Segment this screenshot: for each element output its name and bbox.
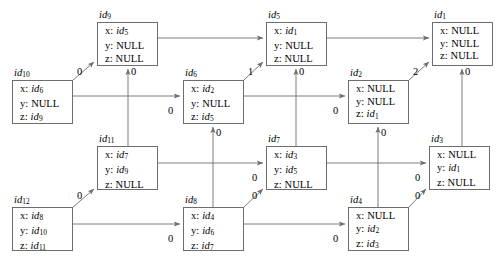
node-id4[interactable]: x:NULLy:id2z:id3 — [348, 207, 409, 251]
node-id1-field-0: x:NULL — [440, 25, 486, 38]
edge-id2-to-id1-label: 2 — [413, 66, 418, 77]
node-id11-field-1: y:id9 — [105, 164, 151, 179]
node-id8-field-0: x:id4 — [191, 210, 237, 225]
node-id10-field-2: z:id9 — [20, 111, 66, 126]
node-id6-field-0: x:id2 — [191, 83, 237, 98]
node-id7-field-0: x:id3 — [274, 149, 320, 164]
node-label-id12: id12 — [14, 194, 30, 206]
node-id3-field-2: z:NULL — [437, 177, 483, 190]
node-id4-field-1: y:id2 — [356, 223, 402, 238]
node-id11-field-2: z:NULL — [105, 179, 151, 192]
node-id6-field-1: y:NULL — [191, 98, 237, 111]
node-id5-field-2: z:NULL — [274, 53, 320, 66]
node-label-id1: id1 — [434, 9, 446, 21]
node-id5[interactable]: x:id1y:NULLz:NULL — [266, 22, 327, 66]
edge-id12-to-id11-label: 0 — [77, 190, 82, 201]
node-label-id10: id10 — [14, 67, 30, 79]
node-id5-field-0: x:id1 — [274, 25, 320, 40]
node-id3-field-1: y:id1 — [437, 162, 483, 177]
edge-id6-to-id5-label: 1 — [248, 66, 253, 77]
node-label-id2: id2 — [350, 67, 362, 79]
node-id6[interactable]: x:id2y:NULLz:id5 — [183, 80, 244, 124]
node-id3-field-0: x:NULL — [437, 149, 483, 162]
edge-id6-to-id5 — [244, 62, 263, 80]
node-id4-field-2: z:id3 — [356, 238, 402, 253]
node-label-id3: id3 — [431, 133, 443, 145]
node-id7-field-2: z:NULL — [274, 179, 320, 192]
object-graph-diagram: x:id5y:NULLz:NULLx:id1y:NULLz:NULLx:NULL… — [0, 0, 504, 264]
node-id2[interactable]: x:NULLy:NULLz:id1 — [348, 80, 409, 124]
node-id2-field-0: x:NULL — [356, 83, 402, 96]
node-label-id5: id5 — [268, 9, 280, 21]
edge-id7-to-id3-label: 0 — [415, 172, 420, 183]
edge-id12-to-id8-label: 0 — [168, 233, 173, 244]
node-id10-field-1: y:NULL — [20, 98, 66, 111]
edge-id4-to-id3-label: 0 — [415, 190, 420, 201]
node-id8-field-1: y:id6 — [191, 225, 237, 240]
edge-id11-to-id7-label: 0 — [252, 172, 257, 183]
node-id8-field-2: z:id7 — [191, 240, 237, 255]
node-label-id9: id9 — [99, 9, 111, 21]
node-label-id7: id7 — [268, 133, 280, 145]
node-id11[interactable]: x:id7y:id9z:NULL — [97, 146, 158, 190]
node-id1[interactable]: x:NULLy:NULLz:NULL — [432, 22, 493, 66]
edge-id3-to-id1-label: 0 — [465, 66, 470, 77]
edge-id4-to-id2-label: 0 — [381, 127, 386, 138]
node-id6-field-2: z:id5 — [191, 111, 237, 126]
node-id9-field-0: x:id5 — [105, 25, 151, 40]
edge-id6-to-id2-label: 0 — [333, 105, 338, 116]
node-id4-field-0: x:NULL — [356, 210, 402, 223]
node-id12-field-0: x:id8 — [20, 210, 66, 225]
node-id9[interactable]: x:id5y:NULLz:NULL — [97, 22, 158, 66]
node-label-id4: id4 — [350, 194, 362, 206]
node-id11-field-0: x:id7 — [105, 149, 151, 164]
node-id10[interactable]: x:id6y:NULLz:id9 — [12, 80, 73, 124]
node-label-id11: id11 — [99, 133, 114, 145]
node-id9-field-1: y:NULL — [105, 40, 151, 53]
node-id5-field-1: y:NULL — [274, 40, 320, 53]
node-label-id6: id6 — [185, 67, 197, 79]
edge-layer — [0, 0, 504, 264]
node-id8[interactable]: x:id4y:id6z:id7 — [183, 207, 244, 251]
node-id1-field-1: y:NULL — [440, 38, 486, 51]
node-id7[interactable]: x:id3y:id5z:NULL — [266, 146, 327, 190]
node-id10-field-0: x:id6 — [20, 83, 66, 98]
edge-id2-to-id1 — [409, 62, 429, 80]
node-id1-field-2: z:NULL — [440, 50, 486, 63]
node-id12-field-1: y:id10 — [20, 225, 66, 240]
node-id2-field-2: z:id1 — [356, 108, 402, 123]
edge-id8-to-id6-label: 0 — [216, 127, 221, 138]
node-id9-field-2: z:NULL — [105, 53, 151, 66]
edge-id8-to-id4-label: 0 — [333, 233, 338, 244]
edge-id8-to-id7-label: 0 — [252, 190, 257, 201]
edge-id10-to-id6-label: 0 — [168, 105, 173, 116]
node-label-id8: id8 — [185, 194, 197, 206]
node-id7-field-1: y:id5 — [274, 164, 320, 179]
node-id12-field-2: z:id11 — [20, 240, 66, 255]
edge-id10-to-id9-label: 0 — [77, 66, 82, 77]
node-id12[interactable]: x:id8y:id10z:id11 — [12, 207, 73, 251]
node-id2-field-1: y:NULL — [356, 96, 402, 109]
edge-id7-to-id5-label: 0 — [299, 66, 304, 77]
node-id3[interactable]: x:NULLy:id1z:NULL — [429, 146, 490, 190]
edge-id11-to-id9-label: 0 — [131, 66, 136, 77]
